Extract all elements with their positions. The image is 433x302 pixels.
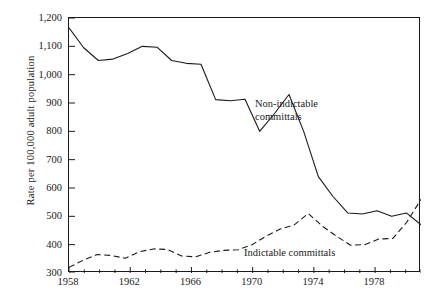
indictable-annotation: Indictable committals [244, 247, 335, 260]
y-tick-800: 800 [0, 125, 62, 136]
indictable-annotation-line1: Indictable committals [244, 247, 335, 260]
non-indictable-annotation-line1: Non-indictable [255, 98, 318, 111]
x-tick-1958: 1958 [58, 276, 79, 287]
chart-figure: Rate per 100,000 adult population 300 40… [0, 0, 433, 302]
y-tick-400: 400 [0, 238, 62, 249]
x-tick-1962: 1962 [119, 276, 140, 287]
x-axis-tick-marks [69, 267, 421, 273]
y-tick-900: 900 [0, 97, 62, 108]
plot-area [68, 17, 420, 272]
y-axis-tick-marks [69, 18, 75, 273]
series-line-non-indictable-committals [69, 28, 421, 225]
non-indictable-annotation-line2: committals [255, 111, 318, 124]
y-tick-300: 300 [0, 267, 62, 278]
x-tick-1966: 1966 [180, 276, 201, 287]
y-tick-600: 600 [0, 182, 62, 193]
y-tick-1000: 1,000 [0, 68, 62, 79]
y-tick-500: 500 [0, 210, 62, 221]
y-tick-700: 700 [0, 153, 62, 164]
x-tick-1978: 1978 [364, 276, 385, 287]
non-indictable-annotation: Non-indictable committals [255, 98, 318, 123]
y-tick-1100: 1,100 [0, 40, 62, 51]
x-tick-1970: 1970 [241, 276, 262, 287]
series-canvas [69, 18, 421, 273]
y-tick-1200: 1,200 [0, 12, 62, 23]
x-tick-1974: 1974 [302, 276, 323, 287]
